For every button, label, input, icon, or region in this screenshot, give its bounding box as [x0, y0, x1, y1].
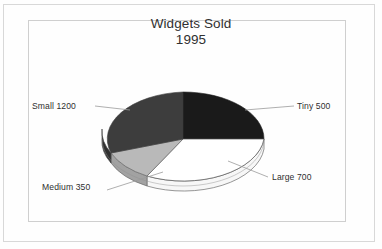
pie-chart-graphic — [0, 0, 382, 249]
pie-label-large: Large 700 — [272, 172, 312, 182]
pie-slice-tiny — [183, 92, 264, 139]
pie-label-medium: Medium 350 — [42, 182, 90, 192]
chart-page: Widgets Sold 1995 Small 1200 Tiny 500 La… — [0, 0, 382, 249]
pie-label-tiny: Tiny 500 — [297, 101, 330, 111]
leader-line-tiny — [245, 106, 294, 110]
pie-label-small: Small 1200 — [32, 101, 76, 111]
leader-line-small — [95, 106, 130, 110]
